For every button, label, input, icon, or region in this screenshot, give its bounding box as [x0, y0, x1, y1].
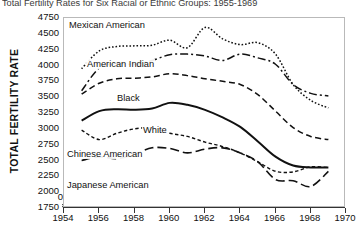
y-axis-zero-label: 0	[23, 191, 63, 202]
series-label-white: White	[142, 125, 168, 135]
y-axis-tick-label: 4250	[19, 44, 59, 54]
y-axis-tick-label: 4500	[19, 28, 59, 38]
chart-title: Total Fertility Rates for Six Racial or …	[2, 0, 362, 8]
y-axis-tick-label: 2750	[19, 139, 59, 149]
y-axis-tick-label: 3750	[19, 75, 59, 85]
chart-figure: Total Fertility Rates for Six Racial or …	[0, 0, 364, 240]
x-axis-tick-label: 1966	[255, 213, 295, 223]
y-axis-tick-label: 1750	[19, 202, 59, 212]
x-axis-tick-label: 1956	[78, 213, 118, 223]
x-axis-tick-label: 1958	[114, 213, 154, 223]
y-axis-tick-label: 3250	[19, 107, 59, 117]
series-label-chinese-american: Chinese American	[66, 149, 143, 159]
series-label-mexican-american: Mexican American	[68, 20, 146, 30]
x-axis-tick-label: 1964	[219, 213, 259, 223]
plot-area: Mexican AmericanAmerican IndianBlackWhit…	[63, 17, 345, 207]
x-axis-tick-label: 1970	[325, 213, 364, 223]
series-label-black: Black	[116, 93, 141, 103]
x-axis-tick-label: 1960	[149, 213, 189, 223]
x-axis-tick-label: 1962	[184, 213, 224, 223]
y-axis-tick-label: 3000	[19, 123, 59, 133]
y-axis-tick-label: 4750	[19, 12, 59, 22]
y-axis-tick-label: 4000	[19, 60, 59, 70]
series-label-american-indian: American Indian	[86, 59, 155, 69]
y-axis-tick-label: 3500	[19, 91, 59, 101]
series-label-japanese-american: Japanese American	[66, 180, 150, 190]
x-axis-tick-label: 1968	[290, 213, 330, 223]
y-axis-tick-label: 2500	[19, 155, 59, 165]
x-axis-tick-label: 1954	[43, 213, 83, 223]
y-axis-tick-label: 2250	[19, 170, 59, 180]
